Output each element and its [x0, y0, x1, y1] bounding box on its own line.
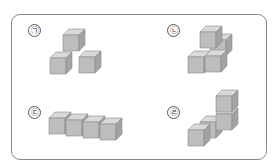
cube-figures	[0, 0, 278, 166]
figure-giyeok	[50, 29, 101, 74]
figure-nieun	[188, 26, 232, 73]
figure-digeut	[49, 112, 122, 140]
figure-rieul	[188, 90, 238, 146]
